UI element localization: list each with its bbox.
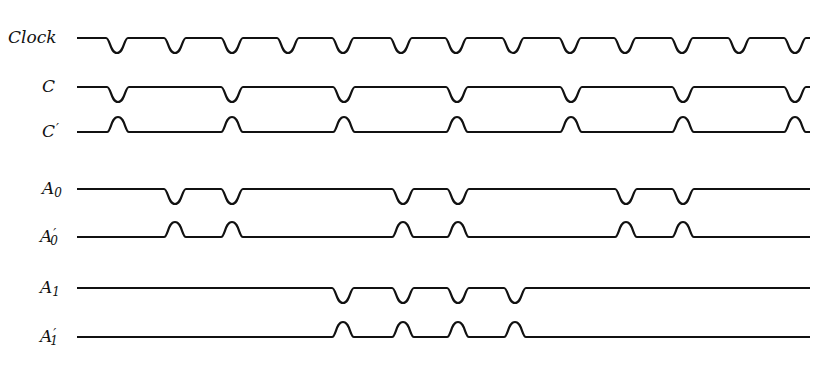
signal-label-a1-prime: A′1 [40, 328, 58, 347]
waveform-a1 [77, 288, 810, 303]
waveform-a0 [77, 189, 810, 204]
signal-label-a0-prime: A′0 [40, 228, 58, 247]
waveform-c-prime [77, 117, 810, 132]
signal-label-text: C [42, 76, 55, 96]
signal-label-text: A [42, 178, 54, 198]
subscript: 0 [54, 186, 62, 200]
waveform-a0-prime [77, 222, 810, 237]
signal-label-a0: A0 [42, 180, 62, 199]
signal-label-c: C [42, 78, 55, 95]
waveform-c [77, 87, 810, 102]
signal-label-text: A [40, 277, 52, 297]
signal-label-c-prime: C′ [42, 123, 59, 140]
prime-mark: ′ [53, 226, 56, 241]
timing-diagram [0, 0, 838, 368]
waveform-a1-prime [77, 322, 810, 337]
prime-mark: ′ [53, 326, 56, 341]
signal-label-text: Clock [8, 27, 57, 47]
signal-label-text: C [42, 121, 55, 141]
waveform-clock [77, 38, 810, 53]
subscript: 1 [52, 285, 60, 299]
signal-label-a1: A1 [40, 279, 60, 298]
signal-label-clock: Clock [8, 29, 57, 46]
prime-mark: ′ [56, 121, 59, 136]
